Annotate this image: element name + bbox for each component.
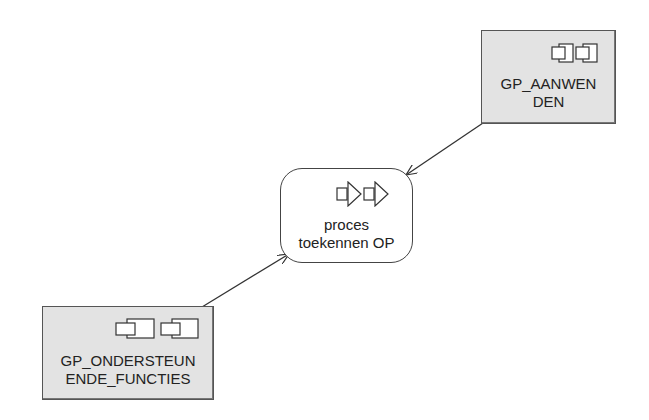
edge-aanwenden-to-proces[interactable] bbox=[406, 123, 483, 175]
node-label-line2: ENDE_FUNCTIES bbox=[43, 370, 213, 388]
node-proces-toekennen-op[interactable]: proces toekennen OP bbox=[280, 168, 413, 263]
edge-ondersteunende-to-proces[interactable] bbox=[202, 254, 289, 307]
node-gp-aanwenden[interactable]: GP_AANWEN DEN bbox=[481, 30, 616, 124]
process-icon bbox=[336, 181, 392, 207]
component-icon bbox=[551, 43, 601, 65]
node-gp-ondersteunende-functies[interactable]: GP_ONDERSTEUN ENDE_FUNCTIES bbox=[42, 306, 214, 400]
node-label-line1: proces bbox=[281, 216, 412, 234]
node-label-line1: GP_AANWEN bbox=[482, 75, 615, 93]
node-label-line2: DEN bbox=[482, 93, 615, 111]
component-icon bbox=[115, 318, 199, 340]
node-label-line2: toekennen OP bbox=[281, 234, 412, 252]
node-label-line1: GP_ONDERSTEUN bbox=[43, 352, 213, 370]
